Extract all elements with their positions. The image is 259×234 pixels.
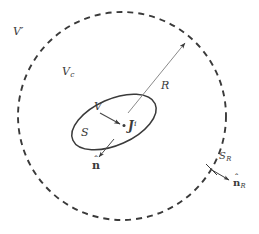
label-sphere-surface-subscript: R	[226, 155, 231, 163]
normal-sphere-arrow	[212, 170, 229, 180]
label-exterior-region: V′	[13, 26, 23, 37]
label-current-density: Ji	[128, 119, 137, 132]
label-intermediate-region-symbol: V	[62, 65, 70, 78]
figure-container: V′ Vc V S Ji R SR ˆn ˆnR	[0, 0, 259, 234]
current-density-point	[123, 124, 126, 127]
sphere-surface-tick	[206, 164, 217, 175]
label-normal-sphere: ˆnR	[233, 178, 246, 189]
label-source-surface: S	[81, 127, 89, 138]
label-exterior-region-symbol: V	[13, 25, 21, 38]
radius-line	[128, 43, 185, 113]
label-current-density-superscript: i	[134, 118, 137, 128]
hat-accent: ˆ	[94, 155, 99, 164]
n-hat-glyph: ˆn	[92, 160, 100, 171]
diagram-canvas	[0, 0, 259, 234]
label-intermediate-region: Vc	[62, 66, 74, 78]
label-intermediate-region-subscript: c	[70, 70, 74, 79]
dashed-sphere-boundary	[18, 12, 226, 220]
label-radius: R	[161, 80, 169, 91]
hat-accent-r: ˆ	[235, 174, 239, 183]
label-normal-sphere-subscript: R	[240, 182, 245, 190]
label-exterior-region-prime: ′	[21, 25, 23, 37]
label-sphere-surface-symbol: S	[219, 150, 226, 161]
label-sphere-surface: SR	[219, 151, 231, 162]
current-density-arrow	[100, 113, 120, 124]
label-source-volume: V	[94, 101, 102, 112]
label-normal-source: ˆn	[92, 160, 100, 171]
n-hat-r-glyph: ˆn	[233, 178, 240, 188]
label-current-density-symbol: J	[128, 119, 134, 133]
source-volume-ellipse	[64, 83, 165, 162]
